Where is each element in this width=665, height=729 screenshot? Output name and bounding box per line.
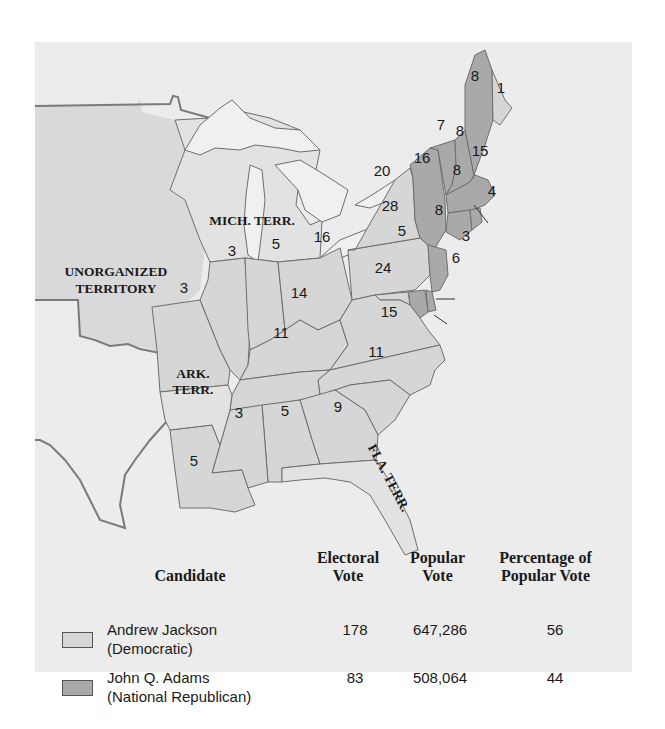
color-swatch-adams [62, 680, 93, 696]
candidate-party: (National Republican) [107, 687, 251, 706]
label-ark-1: ARK. [176, 366, 209, 381]
percentage: 56 [535, 620, 575, 639]
ev-maine-jackson: 1 [497, 79, 505, 96]
header-percentage-line1: Percentage of [483, 549, 608, 567]
header-electoral-line2: Vote [303, 567, 393, 585]
header-popular-vote: Popular Vote [395, 549, 480, 585]
candidate-name: John Q. Adams [107, 668, 251, 687]
ev-illinois: 3 [228, 242, 236, 259]
electoral-vote: 83 [335, 668, 375, 687]
header-candidate: Candidate [120, 567, 260, 585]
header-popular-line1: Popular [395, 549, 480, 567]
candidate-party: (Democratic) [107, 639, 217, 658]
percentage: 44 [535, 668, 575, 687]
leader-line-maryland [434, 315, 447, 324]
ev-maryland-adams: 6 [452, 249, 460, 266]
legend-row-adams: John Q. Adams (National Republican) 83 5… [35, 668, 632, 714]
label-unorganized-2: TERRITORY [75, 281, 156, 296]
popular-vote: 508,064 [400, 668, 480, 687]
ev-new-hampshire: 8 [456, 122, 464, 139]
header-popular-line2: Vote [395, 567, 480, 585]
header-percentage: Percentage of Popular Vote [483, 549, 608, 585]
ev-pennsylvania: 28 [382, 197, 399, 214]
legend-row-jackson: Andrew Jackson (Democratic) 178 647,286 … [35, 620, 632, 666]
election-map: 8 1 8 7 15 4 8 16 20 8 28 3 6 5 24 15 11… [0, 0, 665, 560]
header-percentage-line2: Popular Vote [483, 567, 608, 585]
ev-georgia: 9 [334, 398, 342, 415]
ev-tennessee: 11 [273, 324, 289, 341]
color-swatch-jackson [62, 632, 93, 648]
candidate-name: Andrew Jackson [107, 620, 217, 639]
ev-mississippi: 3 [235, 404, 243, 421]
candidate-jackson: Andrew Jackson (Democratic) [107, 620, 217, 658]
ev-new-york-jackson: 20 [374, 162, 391, 179]
state-rhode-island [470, 208, 482, 230]
ev-delaware: 3 [462, 227, 470, 244]
ev-missouri: 3 [180, 279, 188, 296]
ev-connecticut: 8 [453, 161, 461, 178]
ev-new-york-adams: 16 [414, 149, 431, 166]
ev-vermont: 7 [437, 116, 445, 133]
ev-rhode-island: 4 [488, 182, 496, 199]
ev-ohio: 16 [314, 228, 331, 245]
ev-virginia: 24 [375, 259, 392, 276]
ev-south-carolina: 11 [368, 343, 384, 360]
ev-kentucky: 14 [291, 284, 308, 301]
ev-maine-adams: 8 [471, 67, 479, 84]
ev-massachusetts: 15 [472, 142, 489, 159]
ev-indiana: 5 [272, 235, 280, 252]
ev-new-jersey: 8 [435, 201, 443, 218]
ev-louisiana: 5 [190, 452, 198, 469]
label-unorganized-1: UNORGANIZED [65, 264, 168, 279]
ev-maryland-jackson: 5 [398, 222, 406, 239]
popular-vote: 647,286 [400, 620, 480, 639]
ev-north-carolina: 15 [381, 303, 398, 320]
label-mich-terr: MICH. TERR. [209, 213, 295, 228]
state-new-jersey [428, 245, 448, 292]
label-ark-2: TERR. [173, 382, 214, 397]
ev-alabama: 5 [281, 402, 289, 419]
candidate-adams: John Q. Adams (National Republican) [107, 668, 251, 706]
electoral-vote: 178 [335, 620, 375, 639]
header-electoral-vote: Electoral Vote [303, 549, 393, 585]
header-electoral-line1: Electoral [303, 549, 393, 567]
